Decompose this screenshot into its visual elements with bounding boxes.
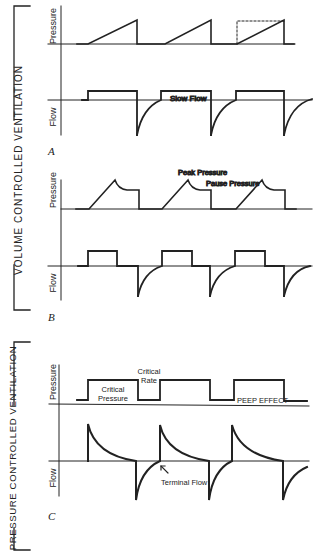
panel-b-flow-waveform (78, 251, 310, 296)
peak-pressure-label: Peak Pressure (178, 168, 227, 177)
panel-b-flow-axis-label: Flow (48, 273, 58, 293)
panel-a-flow-axis-label: Flow (48, 107, 58, 127)
critical-pressure-label-line1: Critical (102, 385, 125, 394)
critical-rate-label-line1: Critical (138, 367, 161, 376)
panel-a-letter: A (47, 145, 55, 157)
ventilation-waveform-diagram: Slow Flow Peak Pressure Pause Pressure (0, 0, 316, 557)
panel-b-pressure-axis-label: Pressure (48, 172, 58, 208)
panel-a-pressure-waveform (77, 20, 294, 44)
panel-a-pressure-axis-label: Pressure (48, 8, 58, 44)
volume-controlled-ventilation-title: VOLUME CONTROLLED VENTILATION (13, 65, 24, 275)
terminal-flow-arrow (161, 466, 168, 473)
peep-effect-label: PEEP EFFECT (237, 396, 289, 405)
pause-pressure-label: Pause Pressure (206, 179, 259, 188)
panel-b-pressure-waveform (76, 180, 296, 209)
panel-c-flow-axis-label: Flow (48, 468, 58, 488)
panel-b-letter: B (48, 311, 55, 323)
terminal-flow-label: Terminal Flow (161, 478, 208, 487)
panel-c-letter: C (48, 510, 56, 522)
critical-rate-label-line2: Rate (141, 376, 157, 385)
panel-c-flow-waveform (88, 424, 307, 500)
panel-b-axes (48, 180, 312, 300)
critical-pressure-label-line2: Pressure (98, 394, 128, 403)
panel-c-pressure-axis-label: Pressure (48, 364, 58, 400)
pressure-controlled-ventilation-title: PRESSURE CONTROLLED VENTILATION (7, 346, 18, 550)
slow-flow-label: Slow Flow (170, 94, 207, 103)
